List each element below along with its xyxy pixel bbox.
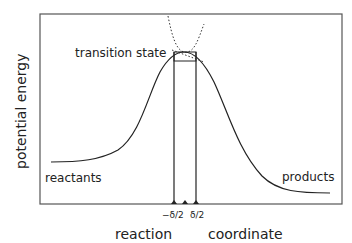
transition-state-label: transition state (75, 46, 166, 60)
tick-marker (193, 200, 199, 204)
y-axis-label: potential energy (13, 53, 29, 169)
tick-marker (171, 200, 177, 204)
reactants-label: reactants (45, 171, 102, 185)
harmonic-fit-curve (168, 16, 204, 52)
x-axis-label-1: reaction (115, 226, 172, 242)
products-label: products (282, 170, 334, 184)
plus-delta-label: δ/2 (190, 210, 204, 220)
tick-marker (182, 200, 188, 204)
x-axis-label-2: coordinate (208, 226, 283, 242)
minus-delta-label: −δ/2 (162, 210, 184, 220)
energy-diagram: transition state reactants products −δ/2… (0, 0, 352, 243)
